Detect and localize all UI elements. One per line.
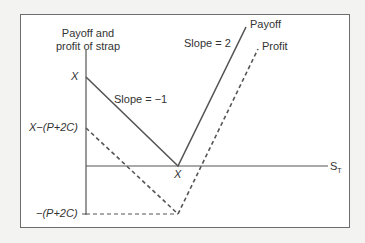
x-tick-x-label: X	[174, 168, 181, 181]
slope-right-annotation: Slope = 2	[184, 37, 231, 50]
slope-left-annotation: Slope = −1	[114, 93, 167, 106]
y-axis-label: Payoff and profit of strap	[48, 27, 128, 53]
y-axis-label-line2: profit of strap	[48, 40, 128, 53]
x-axis-label: ST	[330, 160, 342, 177]
profit-legend-label: Profit	[262, 40, 288, 53]
payoff-legend-label: Payoff	[250, 18, 281, 31]
y-tick-x-minus-cost-label: X−(P+2C)	[29, 121, 78, 134]
x-axis-label-subscript: T	[337, 167, 341, 174]
profit-line	[86, 49, 258, 214]
y-tick-neg-cost-label: −(P+2C)	[36, 207, 78, 220]
y-axis-label-line1: Payoff and	[48, 27, 128, 40]
y-tick-x-label: X	[71, 70, 78, 83]
